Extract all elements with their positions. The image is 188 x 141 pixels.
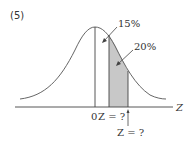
problem-label: (5) bbox=[10, 10, 24, 21]
label-z-second: Z = ? bbox=[117, 127, 144, 138]
arrowhead-z-icon bbox=[127, 109, 130, 113]
bell-curve bbox=[20, 27, 166, 99]
shaded-area-20 bbox=[109, 35, 128, 107]
label-20-percent: 20% bbox=[134, 41, 156, 52]
label-origin: 0 bbox=[91, 111, 97, 122]
normal-distribution-diagram: (5) 15% 20% 0 Z = ? Z = ? Z bbox=[0, 0, 188, 141]
label-15-percent: 15% bbox=[118, 18, 140, 29]
label-z-first: Z = ? bbox=[98, 111, 125, 122]
label-axis-z: Z bbox=[175, 102, 184, 113]
